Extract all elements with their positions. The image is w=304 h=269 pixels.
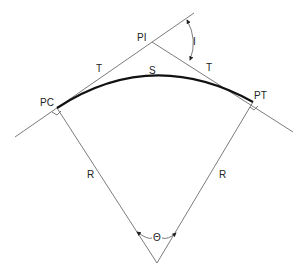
circular-arc bbox=[57, 75, 253, 108]
tangent-left-label: T bbox=[96, 63, 102, 74]
arc-length-label: S bbox=[149, 65, 156, 76]
pi-label: PI bbox=[137, 32, 146, 43]
tangent-right-label: T bbox=[206, 62, 212, 73]
curve-diagram: PI PC PT T T S R R I Θ bbox=[0, 0, 304, 269]
pt-label: PT bbox=[254, 90, 267, 101]
radius-line-left bbox=[57, 108, 157, 263]
radius-line-right bbox=[157, 102, 253, 263]
radius-left-label: R bbox=[87, 169, 94, 180]
deflection-angle-label: I bbox=[193, 36, 196, 47]
radius-right-label: R bbox=[219, 169, 226, 180]
central-angle-label: Θ bbox=[153, 232, 161, 243]
pc-label: PC bbox=[40, 97, 54, 108]
